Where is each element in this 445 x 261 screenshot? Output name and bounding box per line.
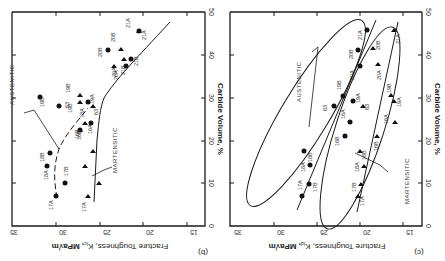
point-label: 17A (359, 196, 365, 206)
austenitic-leader-b (24, 110, 59, 149)
tick-label: 30 (277, 229, 285, 236)
data-point-19B-mar (77, 93, 83, 97)
point-label: 19A (396, 97, 402, 107)
point-label: 17A (297, 180, 303, 190)
tick-label: 35 (234, 229, 242, 236)
point-label: 16A (340, 109, 346, 119)
data-point-20A-aus (358, 64, 363, 69)
martensitic-trend-curve-b (94, 22, 170, 202)
point-label: 18B (39, 152, 45, 162)
point-label: 21A (125, 18, 131, 28)
point-labels-b: 17A 17B 18A 18B 16B 16A 63 19A 19B 20A 2… (39, 18, 147, 212)
panel-tag-b: (b) (198, 248, 208, 257)
tick-label: 20 (146, 229, 154, 236)
panel-c: 35 30 25 20 15 0 10 20 30 40 50 Carbide … (230, 8, 442, 257)
carbide-tick-labels-b: 0 10 20 30 40 50 (208, 8, 215, 228)
carbide-axis-title-b: Carbide Volume, % (216, 83, 225, 155)
point-label: 20A (111, 67, 117, 77)
point-label: 18A (79, 108, 85, 118)
data-point-17B-aus (307, 182, 312, 187)
data-point-63-aus (57, 104, 62, 109)
tick-label: 0 (425, 224, 432, 228)
figure-canvas: 35 30 25 20 15 0 10 20 30 40 50 Carbide … (0, 0, 445, 261)
toughness-title-main: Fracture Toughness, K (87, 242, 168, 251)
data-point-20B-aus (106, 48, 111, 53)
tick-label: 20 (425, 137, 432, 145)
point-label: 20B (375, 40, 381, 50)
point-label: 19B (65, 83, 71, 93)
toughness-axis-title-b: Fracture Toughness, KIc, MPa√m (52, 241, 169, 251)
point-label: 63 (93, 109, 99, 115)
martensitic-label-b: MARTENSITIC (112, 127, 118, 173)
toughness-title-unit: , MPa√m (52, 242, 84, 251)
point-label: 17B (63, 166, 69, 176)
data-point-21A-aus (365, 28, 370, 33)
point-label: 19B (67, 103, 73, 113)
data-point-17B-aus (63, 181, 68, 186)
point-label: 19B (39, 97, 45, 107)
tick-label: 25 (103, 229, 111, 236)
toughness-axis-title-c: Fracture Toughness, KId, MPa√m (269, 241, 386, 251)
point-label: 16B (334, 136, 340, 146)
carbide-ticks-b (12, 55, 205, 183)
point-label: 20B (110, 32, 116, 42)
data-point-19B-aus (341, 94, 346, 99)
data-point-20B-aus (356, 48, 361, 53)
tick-label: 0 (208, 224, 215, 228)
point-label: 63 (322, 105, 328, 111)
tick-label: 40 (208, 51, 215, 59)
point-label: 20A (376, 70, 382, 80)
tick-label: 15 (190, 229, 198, 236)
point-label: 19B (386, 83, 392, 93)
data-point-18A-aus (45, 164, 50, 169)
data-point-16A-mar (392, 120, 398, 124)
point-label: 21A (357, 30, 363, 40)
point-label: 17A (81, 202, 87, 212)
panel-b: 35 30 25 20 15 0 10 20 30 40 50 Carbide … (9, 8, 225, 257)
point-label: 18A (43, 170, 49, 180)
data-point-20A-mar (375, 62, 381, 66)
point-label: 63 (364, 104, 370, 110)
point-label: 19A (355, 93, 361, 103)
austenitic-trend-curve-b (55, 108, 88, 198)
point-label: 16A (87, 124, 93, 134)
carbide-tick-labels-c: 0 10 20 30 40 50 (425, 8, 432, 228)
point-label: 16A (383, 114, 389, 124)
data-point-18B-mar (90, 149, 96, 153)
tick-label: 20 (363, 229, 371, 236)
data-point-18B-aus (302, 149, 307, 154)
tick-label: 40 (425, 51, 432, 59)
svg-text:Fracture Toughness, KIc, MPa√m: Fracture Toughness, KIc, MPa√m (52, 241, 169, 251)
tick-label: 35 (10, 229, 18, 236)
carbide-axis-title-c: Carbide Volume, % (433, 83, 442, 155)
point-label: 17A (48, 200, 54, 210)
data-point-17A-mar (85, 194, 91, 198)
point-label: 20B (97, 47, 103, 57)
austenitic-label-c: AUSTENITIC (296, 61, 302, 102)
point-label: 19A (89, 94, 95, 104)
point-label: 16B (373, 141, 379, 151)
toughness-title-unit: , MPa√m (269, 242, 301, 251)
panel-tag-c: (c) (414, 248, 424, 257)
svg-text:Fracture Toughness, KId, MPa√m: Fracture Toughness, KId, MPa√m (269, 241, 386, 251)
data-point-19A-mar (77, 100, 83, 104)
point-label: 17B (312, 182, 318, 192)
point-label: 17B (351, 182, 357, 192)
tick-label: 30 (208, 94, 215, 102)
toughness-ticks-b (56, 12, 187, 226)
point-label: 18B (361, 150, 367, 160)
carbide-ticks-c (230, 55, 422, 183)
point-label: 18B (307, 152, 313, 162)
toughness-title-main: Fracture Toughness, K (304, 242, 385, 251)
data-point-16A-aus (348, 120, 353, 125)
tick-label: 30 (425, 94, 432, 102)
austenitic-regression-line-c (297, 20, 376, 210)
data-point-18A-mar (82, 164, 88, 168)
point-label: 18A (300, 162, 306, 172)
point-label: 20B (348, 49, 354, 59)
point-label: 18A (354, 162, 360, 172)
data-point-16B-aus (343, 134, 348, 139)
tick-label: 10 (208, 179, 215, 187)
point-label: 21B (133, 56, 139, 66)
data-point-17A-aus (300, 194, 305, 199)
